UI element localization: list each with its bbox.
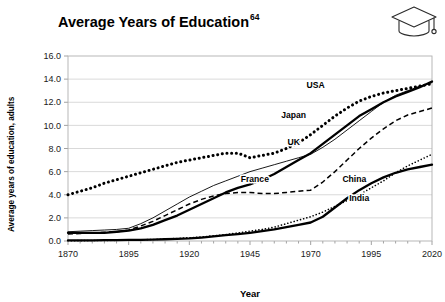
chart-container: Average Years of Education 64 Average ye… [0, 0, 445, 302]
page-title: Average Years of Education [58, 14, 249, 30]
series-line-france [68, 108, 432, 234]
graduation-cap-icon [392, 7, 436, 36]
x-tick-label: 2020 [422, 249, 442, 259]
x-tick-label: 1970 [301, 249, 321, 259]
series-label-japan: Japan [281, 110, 306, 120]
gridlines [64, 56, 432, 241]
series-label-france: France [241, 174, 269, 184]
series-label-india: India [349, 193, 369, 203]
y-axis-tick-labels: 0.02.04.06.08.010.012.014.016.0 [43, 51, 61, 246]
series-labels: USAUSAJapanJapanUKUKFranceFranceChinaChi… [241, 80, 370, 202]
series-label-uk: UK [287, 137, 300, 147]
education-line-chart: Average Years of Education 64 Average ye… [0, 0, 445, 302]
series-label-china: China [342, 174, 366, 184]
y-tick-label: 14.0 [43, 74, 61, 84]
series-lines [68, 81, 432, 240]
x-tick-label: 1870 [58, 249, 78, 259]
y-tick-label: 0.0 [48, 236, 61, 246]
x-tick-label: 1895 [119, 249, 139, 259]
page-title-superscript: 64 [250, 12, 260, 22]
x-tick-label: 1920 [179, 249, 199, 259]
x-axis-title: Year [240, 288, 260, 299]
series-line-india [68, 154, 432, 240]
x-tick-label: 1945 [240, 249, 260, 259]
x-tick-label: 1995 [361, 249, 381, 259]
x-axis-tick-labels: 1870189519201945197019952020 [58, 249, 442, 259]
y-tick-label: 8.0 [48, 144, 61, 154]
y-tick-label: 4.0 [48, 190, 61, 200]
y-tick-label: 16.0 [43, 51, 61, 61]
y-tick-label: 10.0 [43, 121, 61, 131]
y-tick-label: 2.0 [48, 213, 61, 223]
x-axis-tick-marks [68, 241, 432, 245]
y-axis-title: Average years of education, adults [7, 96, 16, 232]
y-tick-label: 6.0 [48, 167, 61, 177]
y-tick-label: 12.0 [43, 97, 61, 107]
series-label-usa: USA [306, 80, 324, 90]
